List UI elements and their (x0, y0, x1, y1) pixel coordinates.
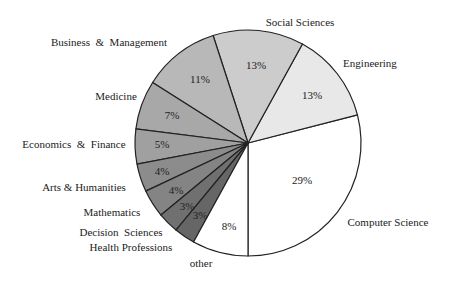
slice-label: other (190, 257, 213, 269)
slice-percentage: 8% (222, 220, 237, 232)
slice-label: Decision Sciences (79, 226, 162, 238)
slice-label: Arts & Humanities (42, 181, 126, 193)
slice-label: Health Professions (90, 241, 173, 253)
slice-percentage: 11% (190, 73, 210, 85)
slice-percentage: 4% (155, 165, 170, 177)
slice-label: Economics & Finance (22, 138, 125, 150)
slice-percentage: 4% (169, 184, 184, 196)
slice-percentage: 29% (292, 174, 312, 186)
slice-percentage: 5% (155, 138, 170, 150)
slice-percentage: 3% (193, 209, 208, 221)
slice-label: Engineering (343, 57, 397, 69)
slice-label: Social Sciences (266, 16, 335, 28)
slice-percentage: 13% (246, 59, 266, 71)
slice-label: Medicine (95, 90, 137, 102)
slice-percentage: 13% (302, 89, 322, 101)
pie-chart: 29%13%13%11%7%5%4%4%3%3%8% Computer Scie… (0, 0, 453, 283)
slice-label: Business & Management (51, 36, 167, 48)
slice-percentage: 7% (165, 109, 180, 121)
slice-label: Mathematics (84, 206, 141, 218)
slice-label: Computer Science (348, 216, 429, 228)
